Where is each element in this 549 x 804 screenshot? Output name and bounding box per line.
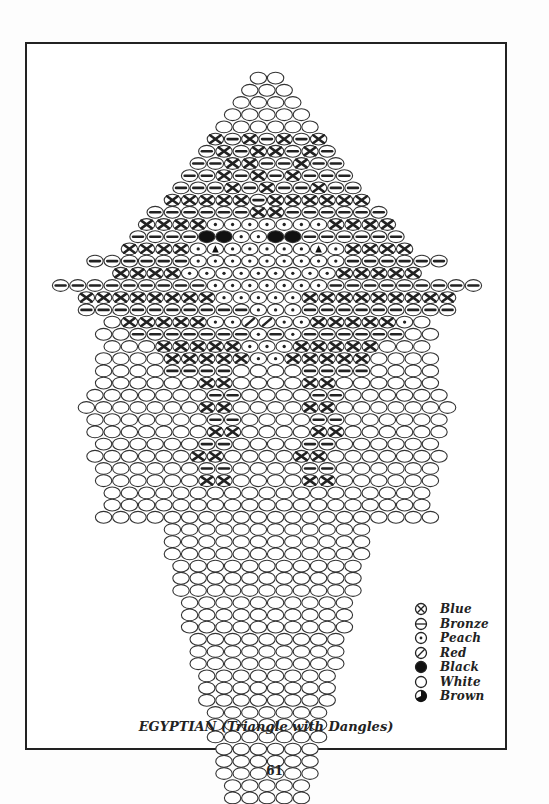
bronze-bead xyxy=(181,231,197,243)
bronze-bead xyxy=(319,365,335,377)
blue-bead xyxy=(310,133,326,145)
white-bead xyxy=(173,414,189,426)
white-bead xyxy=(414,341,430,353)
white-bead xyxy=(422,511,438,523)
white-bead xyxy=(267,548,283,560)
white-bead xyxy=(233,548,249,560)
white-bead xyxy=(293,487,309,499)
white-bead xyxy=(396,487,412,499)
white-bead xyxy=(276,426,292,438)
bronze-bead xyxy=(336,328,352,340)
white-bead xyxy=(302,682,318,694)
white-bead xyxy=(353,475,369,487)
blue-bead xyxy=(190,450,206,462)
bronze-bead xyxy=(216,438,232,450)
blue-bead xyxy=(285,194,301,206)
white-bead xyxy=(388,365,404,377)
white-bead xyxy=(216,694,232,706)
bronze-bead xyxy=(371,328,387,340)
white-bead xyxy=(345,426,361,438)
white-bead xyxy=(267,463,283,475)
white-bead xyxy=(259,780,275,792)
peach-bead xyxy=(285,292,301,304)
bronze-bead xyxy=(276,158,292,170)
white-bead xyxy=(147,475,163,487)
white-bead xyxy=(276,585,292,597)
white-bead xyxy=(104,426,120,438)
peach-bead xyxy=(216,292,232,304)
blue-bead xyxy=(207,450,223,462)
white-bead xyxy=(156,414,172,426)
white-bead xyxy=(405,402,421,414)
white-bead xyxy=(336,463,352,475)
white-bead xyxy=(173,487,189,499)
white-bead xyxy=(95,353,111,365)
blue-bead xyxy=(276,133,292,145)
white-bead xyxy=(267,475,283,487)
white-bead xyxy=(422,463,438,475)
white-bead xyxy=(233,97,249,109)
white-bead xyxy=(207,585,223,597)
white-bead xyxy=(130,475,146,487)
blue-bead xyxy=(224,158,240,170)
bronze-bead xyxy=(319,170,335,182)
white-bead xyxy=(414,426,430,438)
white-bead xyxy=(414,499,430,511)
white-bead xyxy=(285,97,301,109)
white-bead xyxy=(95,365,111,377)
white-bead xyxy=(164,438,180,450)
white-bead xyxy=(190,389,206,401)
peach-bead xyxy=(276,219,292,231)
white-bead xyxy=(336,524,352,536)
white-bead xyxy=(302,609,318,621)
blue-bead xyxy=(310,182,326,194)
white-bead xyxy=(250,365,266,377)
blue-bead xyxy=(164,267,180,279)
bronze-bead xyxy=(345,182,361,194)
white-bead xyxy=(345,487,361,499)
peach-bead xyxy=(224,255,240,267)
white-bead xyxy=(267,609,283,621)
white-bead xyxy=(259,414,275,426)
white-bead xyxy=(224,499,240,511)
white-bead xyxy=(121,487,137,499)
white-bead xyxy=(259,646,275,658)
white-bead xyxy=(233,743,249,755)
white-bead xyxy=(95,463,111,475)
white-bead xyxy=(181,621,197,633)
white-bead xyxy=(319,621,335,633)
white-bead xyxy=(405,475,421,487)
peach-bead xyxy=(242,280,258,292)
bronze-bead xyxy=(147,231,163,243)
white-bead xyxy=(190,633,206,645)
white-bead xyxy=(285,377,301,389)
blue-bead xyxy=(190,316,206,328)
white-bead xyxy=(319,682,335,694)
bronze-bead xyxy=(181,304,197,316)
peach-bead xyxy=(207,280,223,292)
white-bead xyxy=(371,402,387,414)
white-bead xyxy=(130,377,146,389)
white-bead xyxy=(233,511,249,523)
white-bead xyxy=(285,609,301,621)
blue-bead xyxy=(190,219,206,231)
white-bead xyxy=(259,707,275,719)
white-bead xyxy=(173,560,189,572)
blue-bead xyxy=(190,341,206,353)
white-bead xyxy=(207,499,223,511)
white-bead xyxy=(285,121,301,133)
bronze-bead xyxy=(233,304,249,316)
white-bead xyxy=(388,438,404,450)
white-bead xyxy=(267,536,283,548)
white-bead xyxy=(285,524,301,536)
white-bead xyxy=(173,585,189,597)
blue-bead xyxy=(353,353,369,365)
bronze-bead xyxy=(285,206,301,218)
bronze-bead xyxy=(207,182,223,194)
white-bead xyxy=(285,743,301,755)
white-bead xyxy=(353,402,369,414)
blue-bead xyxy=(379,316,395,328)
peach-bead xyxy=(233,231,249,243)
blue-bead xyxy=(164,353,180,365)
white-bead xyxy=(405,377,421,389)
